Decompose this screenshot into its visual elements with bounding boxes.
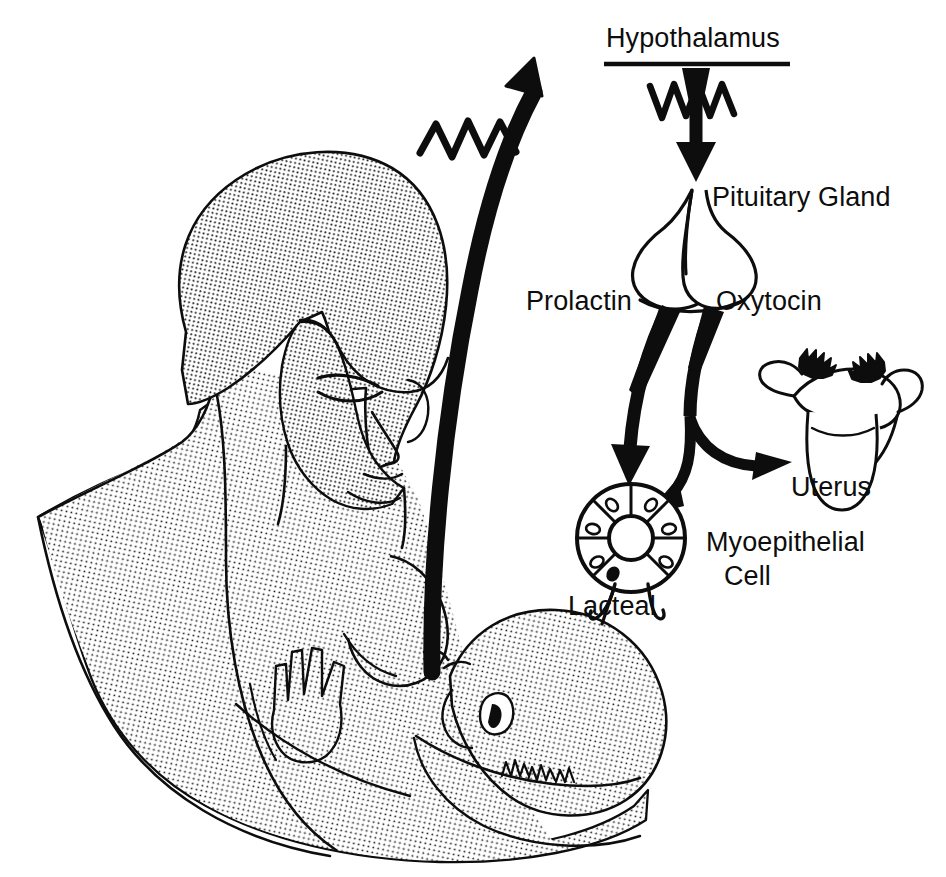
label-oxytocin: Oxytocin [716, 287, 822, 316]
prolactin-pathway [611, 306, 680, 486]
label-hypothalamus: Hypothalamus [606, 24, 780, 53]
label-prolactin: Prolactin [526, 287, 632, 316]
oxytocin-arrow-to-uterus-arrowhead [752, 452, 792, 480]
mother-and-baby-illustration [38, 152, 666, 862]
label-lacteal: Lacteal [568, 592, 656, 621]
hypothalamus-arrowhead [676, 142, 716, 182]
prolactin-arrowhead [611, 444, 650, 486]
afferent-nerve-pathway [420, 58, 542, 672]
label-myoepithelial-cell-second-line: Cell [724, 562, 771, 591]
lactation-reflex-diagram [0, 0, 946, 877]
label-myoepithelial: Myoepithelial [706, 528, 865, 557]
label-pituitary-gland: Pituitary Gland [712, 183, 891, 212]
oxytocin-arrow-to-uterus [690, 418, 756, 466]
afferent-nerve-arrow [432, 92, 534, 672]
afferent-nerve-arrowhead [506, 58, 542, 96]
hypothalamus-group [604, 64, 790, 182]
lacteal-lumen [609, 516, 653, 560]
uterus-left-fimbriae [799, 349, 836, 378]
uterus-right-fimbriae [848, 353, 885, 382]
baby-hand [272, 648, 344, 762]
prolactin-arrow-taper [629, 306, 680, 400]
label-uterus: Uterus [791, 473, 871, 502]
figure-canvas: Hypothalamus Pituitary Gland Prolactin O… [0, 0, 946, 877]
uterus-left-fallopian-tube [760, 362, 802, 396]
